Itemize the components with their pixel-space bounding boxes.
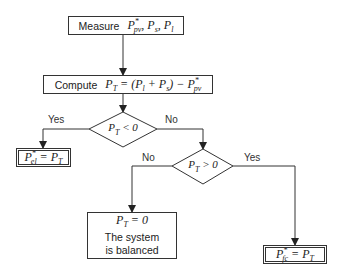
arrow-d2-yes [233, 166, 295, 245]
edge-label-d2-no: No [142, 152, 155, 163]
decision2-condition: PT > 0 [188, 158, 218, 173]
balanced-line2: is balanced [105, 244, 158, 257]
fc-assign-expr: P*fc = PT [276, 246, 314, 263]
arrow-d2-no [132, 166, 172, 212]
fc-assign-box: P*fc = PT [263, 245, 327, 264]
arrow-d1-no [157, 129, 203, 149]
el-assign-box: P*el = PT [16, 148, 71, 167]
compute-box: Compute PT = (Pl + Ps) − P*pv [43, 75, 213, 94]
measure-box: Measure P*pv, Ps, Pl [68, 16, 184, 35]
edge-label-d1-yes: Yes [48, 114, 64, 125]
decision1-condition: PT < 0 [108, 121, 138, 136]
el-assign-expr: P*el = PT [24, 149, 62, 166]
compute-expr: PT = (Pl + Ps) − P*pv [105, 76, 201, 93]
balanced-expr: PT = 0 [116, 214, 148, 231]
balanced-line1: The system [105, 231, 159, 244]
arrow-d1-yes [43, 129, 89, 148]
measure-verb: Measure [79, 20, 120, 32]
balanced-box: PT = 0 The system is balanced [87, 212, 177, 259]
measure-expr: P*pv, Ps, Pl [127, 17, 173, 34]
compute-verb: Compute [55, 79, 98, 91]
edge-label-d1-no: No [165, 114, 178, 125]
edge-label-d2-yes: Yes [244, 152, 260, 163]
